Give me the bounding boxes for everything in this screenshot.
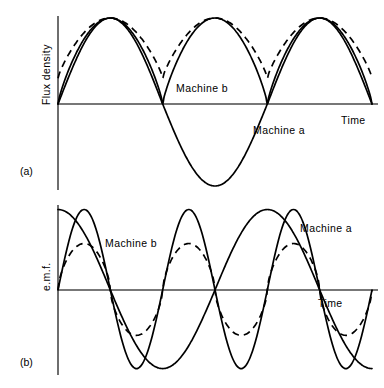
panel-b-x-axis-label: Time <box>318 297 343 309</box>
panel-a-machine-b-label: Machine b <box>176 82 228 94</box>
panel-a-id-wrap: (a) <box>20 161 33 179</box>
panel-b-id: (b) <box>20 356 33 368</box>
panel-a-chart: Flux density Time Machine b Machine a <box>0 0 384 196</box>
panel-a-x-axis-label: Time <box>341 114 366 126</box>
panel-b-y-axis-label: e.m.f. <box>40 262 52 291</box>
panel-a-curves <box>58 18 372 186</box>
curve-machine-b <box>58 18 372 78</box>
panel-a-id: (a) <box>20 165 33 177</box>
figure-container: Flux density Time Machine b Machine a (a… <box>0 0 384 388</box>
panel-b-chart: e.m.f. Time Machine b Machine a <box>0 196 384 388</box>
panel-b-id-wrap: (b) <box>20 352 33 370</box>
panel-a-y-axis-label: Flux density <box>40 44 52 105</box>
panel-b-machine-a-label: Machine a <box>300 222 352 234</box>
panel-a-machine-a-label: Machine a <box>253 124 305 136</box>
curve-machine-a <box>58 18 372 186</box>
panel-b-machine-b-label: Machine b <box>105 237 157 249</box>
